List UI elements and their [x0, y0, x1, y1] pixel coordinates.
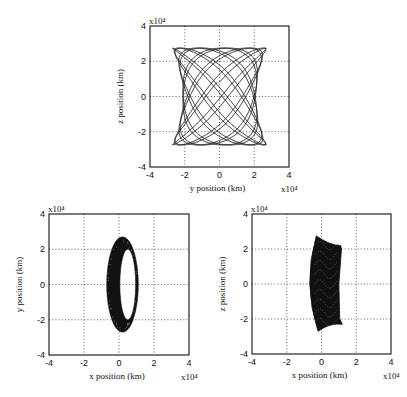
x-tick-label: -4 [248, 357, 256, 367]
y-tick-label: -4 [240, 349, 248, 359]
x-tick-label: -2 [283, 357, 291, 367]
y-tick-label: 2 [243, 244, 248, 254]
x-scale-exponent: x10⁴ [383, 371, 400, 381]
y-scale-exponent: x10⁴ [251, 204, 268, 214]
chart-bottom-right-svg: -4-4-2-2002244x10⁴x10⁴x position (km)z p… [0, 0, 407, 397]
x-tick-label: 4 [388, 357, 393, 367]
y-tick-label: 4 [243, 209, 248, 219]
y-tick-label: 0 [243, 279, 248, 289]
axes: -4-4-2-2002244x10⁴x10⁴x position (km)z p… [217, 204, 400, 381]
x-tick-label: 2 [354, 357, 359, 367]
x-axis-label: x position (km) [292, 370, 348, 380]
x-tick-label: 0 [319, 357, 324, 367]
trajectory-xz-shape [310, 236, 343, 331]
y-axis-label: z position (km) [217, 257, 227, 312]
y-tick-label: -2 [240, 314, 248, 324]
plot-xz-bottom-right: -4-4-2-2002244x10⁴x10⁴x position (km)z p… [0, 0, 407, 397]
